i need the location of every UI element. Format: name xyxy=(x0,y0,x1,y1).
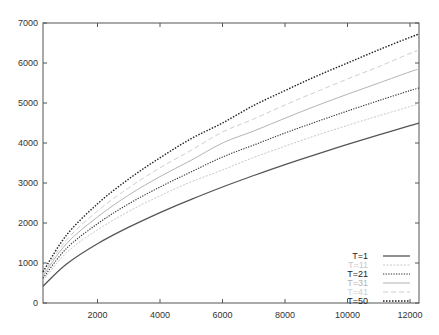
series-line-t41 xyxy=(43,50,419,274)
y-tick-label: 2000 xyxy=(18,218,38,228)
series-line-t50 xyxy=(43,34,419,272)
series-line-t31 xyxy=(43,69,419,276)
x-tick-label: 6000 xyxy=(212,310,232,320)
y-tick-label: 1000 xyxy=(18,258,38,268)
series-line-t21 xyxy=(43,88,419,278)
y-tick-label: 4000 xyxy=(18,138,38,148)
line-chart: 01000200030004000500060007000 2000400060… xyxy=(0,0,439,335)
x-tick-label: 4000 xyxy=(150,310,170,320)
y-tick-label: 5000 xyxy=(18,98,38,108)
y-tick-label: 7000 xyxy=(18,18,38,28)
legend: T=1T=11T=21T=31T=41T=50 xyxy=(347,251,410,306)
y-tick-label: 0 xyxy=(33,298,38,308)
x-tick-label: 12000 xyxy=(397,310,422,320)
y-tick-label: 3000 xyxy=(18,178,38,188)
legend-label: T=50 xyxy=(347,296,368,306)
x-tick-label: 2000 xyxy=(87,310,107,320)
series-layer xyxy=(43,34,419,286)
x-tick-label: 8000 xyxy=(275,310,295,320)
x-tick-label: 10000 xyxy=(335,310,360,320)
y-tick-label: 6000 xyxy=(18,58,38,68)
x-axis: 20004000600080001000012000 xyxy=(87,23,422,320)
